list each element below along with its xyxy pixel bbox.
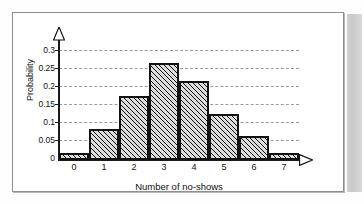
bar <box>239 136 269 160</box>
y-tick-label: 0 <box>21 154 55 163</box>
x-tick-label: 3 <box>149 163 179 172</box>
x-tick-label: 2 <box>119 163 149 172</box>
bar <box>269 153 299 160</box>
x-tick-label: 1 <box>89 163 119 172</box>
bar <box>149 63 179 160</box>
bar <box>179 81 209 160</box>
bar <box>209 114 239 160</box>
x-tick-label: 4 <box>179 163 209 172</box>
plot-area <box>59 39 299 160</box>
bar <box>59 153 89 160</box>
figure-page: 0.3 0.25 0.2 0.15 0.1 0.05 0 <box>0 0 364 204</box>
x-tick-label: 5 <box>209 163 239 172</box>
bar-series <box>59 39 299 160</box>
x-axis-title: Number of no-shows <box>59 181 299 192</box>
y-tick-label: 0.05 <box>21 136 55 145</box>
x-axis-tick-labels: 0 1 2 3 4 5 6 7 <box>59 163 299 177</box>
y-axis-title: Probability <box>25 32 35 128</box>
page-edge-shadow-strip <box>347 14 362 192</box>
x-tick-label: 0 <box>59 163 89 172</box>
x-axis-arrowhead-icon <box>299 154 313 167</box>
x-tick-label: 6 <box>239 163 269 172</box>
bar <box>119 96 149 160</box>
y-axis-tick-labels: 0.3 0.25 0.2 0.15 0.1 0.05 0 <box>17 13 55 193</box>
chart-figure-frame: 0.3 0.25 0.2 0.15 0.1 0.05 0 <box>12 12 344 192</box>
x-tick-label: 7 <box>269 163 299 172</box>
bar <box>89 129 119 160</box>
